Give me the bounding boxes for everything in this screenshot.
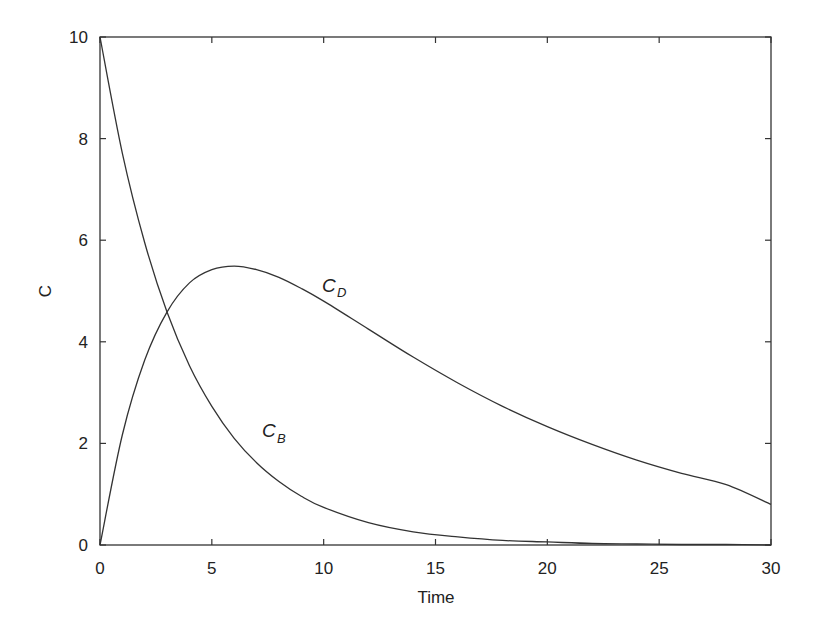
plot-curves [100, 37, 771, 545]
y-tick-label: 0 [79, 536, 88, 555]
x-tick-label: 30 [762, 559, 781, 578]
chart: 051015202530 0246810 Time C C D C B [0, 0, 814, 631]
curve-label-cd-subscript: D [337, 285, 346, 300]
curve-cb [100, 37, 771, 545]
plot-frame [100, 37, 771, 545]
x-tick-label: 0 [95, 559, 104, 578]
x-tick-label: 25 [650, 559, 669, 578]
x-tick-label: 15 [426, 559, 445, 578]
y-tick-label: 8 [79, 130, 88, 149]
curve-label-cb-subscript: B [277, 431, 286, 446]
y-axis-label: C [36, 285, 55, 297]
y-tick-label: 10 [69, 28, 88, 47]
x-axis-label: Time [417, 588, 454, 607]
x-tick-labels: 051015202530 [95, 559, 780, 578]
curve-label-cd: C D [322, 275, 346, 300]
y-tick-label: 6 [79, 231, 88, 250]
y-tick-label: 4 [79, 333, 88, 352]
x-tick-label: 20 [538, 559, 557, 578]
curve-label-cd-main: C [322, 275, 336, 296]
y-tick-label: 2 [79, 434, 88, 453]
x-tick-label: 5 [207, 559, 216, 578]
y-tick-labels: 0246810 [69, 28, 88, 555]
curve-cd [100, 266, 771, 545]
axis-ticks [100, 37, 771, 545]
curve-label-cb-main: C [262, 420, 276, 441]
curve-label-cb: C B [262, 420, 286, 446]
x-tick-label: 10 [314, 559, 333, 578]
